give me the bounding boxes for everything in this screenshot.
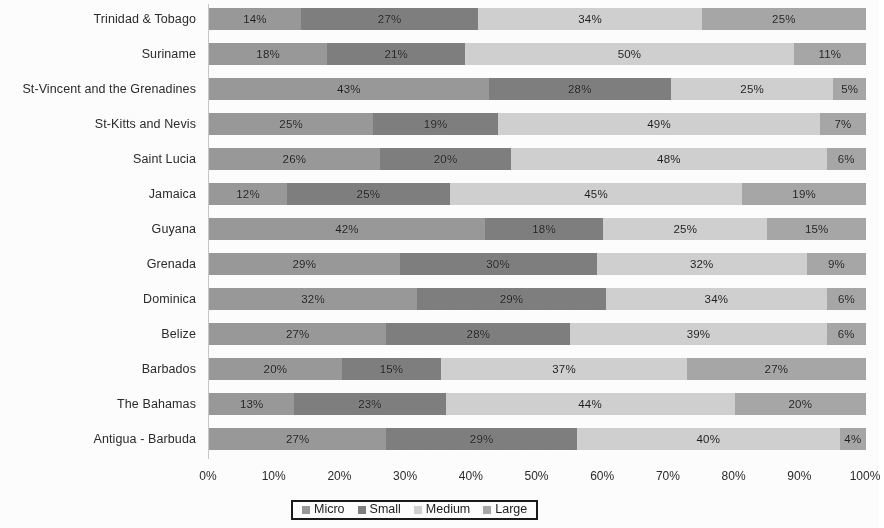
bar-segment-small: 15%: [342, 358, 442, 380]
bar-segment-large: 7%: [820, 113, 866, 135]
bar-segment-small: 25%: [287, 183, 450, 205]
x-axis-tick-labels: 0%10%20%30%40%50%60%70%80%90%100%: [0, 466, 879, 486]
stacked-bar: 27%29%40%4%: [209, 428, 866, 450]
legend-item-medium[interactable]: Medium: [414, 503, 470, 516]
chart-row: St-Kitts and Nevis25%19%49%7%: [0, 113, 879, 135]
bar-segment-medium: 25%: [603, 218, 767, 240]
chart-row: Guyana42%18%25%15%: [0, 218, 879, 240]
bar-segment-micro: 42%: [209, 218, 485, 240]
stacked-bar: 43%28%25%5%: [209, 78, 866, 100]
bar-segment-large: 25%: [702, 8, 866, 30]
segment-value-label: 6%: [838, 293, 855, 305]
bar-segment-large: 9%: [807, 253, 866, 275]
segment-value-label: 13%: [240, 398, 264, 410]
bar-segment-medium: 50%: [465, 43, 794, 65]
segment-value-label: 50%: [618, 48, 642, 60]
segment-value-label: 23%: [358, 398, 382, 410]
category-label: Suriname: [142, 43, 196, 65]
segment-value-label: 27%: [765, 363, 789, 375]
bar-segment-micro: 29%: [209, 253, 400, 275]
segment-value-label: 27%: [286, 328, 310, 340]
segment-value-label: 25%: [740, 83, 764, 95]
category-label: Grenada: [147, 253, 196, 275]
bar-segment-small: 29%: [417, 288, 606, 310]
stacked-bar: 42%18%25%15%: [209, 218, 866, 240]
bar-segment-large: 19%: [742, 183, 866, 205]
bar-segment-small: 23%: [294, 393, 445, 415]
legend-item-large[interactable]: Large: [483, 503, 527, 516]
bar-segment-micro: 12%: [209, 183, 287, 205]
segment-value-label: 7%: [834, 118, 851, 130]
x-axis-tick: 40%: [441, 466, 501, 486]
bar-segment-small: 27%: [301, 8, 478, 30]
segment-value-label: 5%: [841, 83, 858, 95]
segment-value-label: 34%: [578, 13, 602, 25]
chart-row: The Bahamas13%23%44%20%: [0, 393, 879, 415]
bar-segment-micro: 43%: [209, 78, 489, 100]
category-label: Guyana: [152, 218, 196, 240]
bar-segment-medium: 40%: [577, 428, 840, 450]
segment-value-label: 21%: [384, 48, 408, 60]
category-label: St-Kitts and Nevis: [95, 113, 196, 135]
bar-segment-micro: 27%: [209, 428, 386, 450]
segment-value-label: 6%: [838, 328, 855, 340]
segment-value-label: 27%: [286, 433, 310, 445]
x-axis-tick: 20%: [309, 466, 369, 486]
chart-row: Suriname18%21%50%11%: [0, 43, 879, 65]
segment-value-label: 37%: [552, 363, 576, 375]
x-axis-tick: 0%: [178, 466, 238, 486]
bar-segment-small: 30%: [400, 253, 597, 275]
segment-value-label: 44%: [578, 398, 602, 410]
segment-value-label: 26%: [283, 153, 307, 165]
x-axis-tick: 60%: [572, 466, 632, 486]
chart-row: St-Vincent and the Grenadines43%28%25%5%: [0, 78, 879, 100]
bar-segment-small: 29%: [386, 428, 577, 450]
bar-segment-micro: 25%: [209, 113, 373, 135]
segment-value-label: 25%: [674, 223, 698, 235]
chart-row: Dominica32%29%34%6%: [0, 288, 879, 310]
category-label: The Bahamas: [117, 393, 196, 415]
category-label: Barbados: [142, 358, 196, 380]
bar-segment-micro: 18%: [209, 43, 327, 65]
segment-value-label: 18%: [532, 223, 556, 235]
segment-value-label: 14%: [243, 13, 267, 25]
segment-value-label: 12%: [236, 188, 260, 200]
stacked-bar: 26%20%48%6%: [209, 148, 866, 170]
chart-row: Antigua - Barbuda27%29%40%4%: [0, 428, 879, 450]
stacked-bar: 29%30%32%9%: [209, 253, 866, 275]
stacked-bar: 32%29%34%6%: [209, 288, 866, 310]
segment-value-label: 11%: [818, 48, 841, 60]
legend-label: Small: [370, 503, 401, 516]
segment-value-label: 4%: [844, 433, 861, 445]
category-label: Trinidad & Tobago: [94, 8, 196, 30]
segment-value-label: 40%: [696, 433, 720, 445]
category-label: Dominica: [143, 288, 196, 310]
bar-segment-medium: 49%: [498, 113, 820, 135]
legend-swatch-icon: [414, 506, 422, 514]
bar-segment-large: 20%: [735, 393, 866, 415]
bar-segment-large: 4%: [840, 428, 866, 450]
segment-value-label: 49%: [647, 118, 671, 130]
legend-swatch-icon: [483, 506, 491, 514]
segment-value-label: 19%: [424, 118, 448, 130]
stacked-bar: 25%19%49%7%: [209, 113, 866, 135]
segment-value-label: 25%: [357, 188, 381, 200]
x-axis-tick: 50%: [507, 466, 567, 486]
legend-item-micro[interactable]: Micro: [302, 503, 345, 516]
segment-value-label: 9%: [828, 258, 845, 270]
segment-value-label: 29%: [292, 258, 316, 270]
segment-value-label: 32%: [690, 258, 714, 270]
bar-segment-micro: 14%: [209, 8, 301, 30]
bar-segment-large: 15%: [767, 218, 866, 240]
legend-label: Micro: [314, 503, 345, 516]
bar-segment-micro: 13%: [209, 393, 294, 415]
legend-item-small[interactable]: Small: [358, 503, 401, 516]
category-label: Antigua - Barbuda: [94, 428, 196, 450]
chart-row: Belize27%28%39%6%: [0, 323, 879, 345]
bar-segment-micro: 20%: [209, 358, 342, 380]
bar-segment-large: 6%: [827, 148, 866, 170]
bar-segment-small: 20%: [380, 148, 511, 170]
stacked-bar: 12%25%45%19%: [209, 183, 866, 205]
bar-segment-medium: 32%: [597, 253, 807, 275]
